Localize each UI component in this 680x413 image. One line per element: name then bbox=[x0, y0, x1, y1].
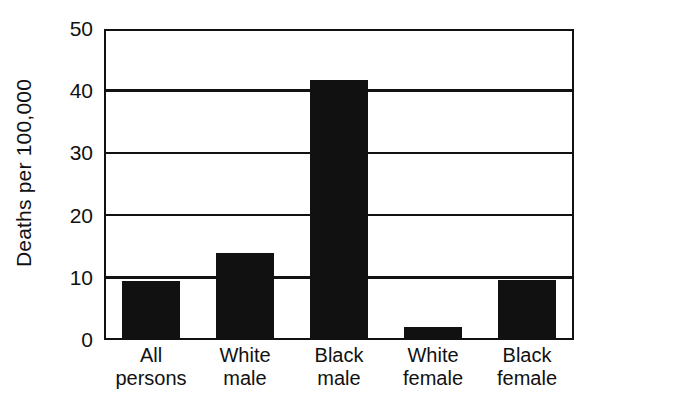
y-axis-tick-label: 0 bbox=[81, 328, 93, 352]
y-axis-tick-label: 20 bbox=[70, 204, 93, 228]
y-axis-title-text: Deaths per 100,000 bbox=[12, 78, 36, 266]
x-axis-tick-label: Blackmale bbox=[315, 344, 364, 390]
x-axis-tick-label-line1: Black bbox=[503, 344, 552, 366]
bar bbox=[498, 280, 556, 338]
y-axis-tick-labels: 01020304050 bbox=[48, 0, 100, 413]
x-axis-tick-label-line2: male bbox=[315, 367, 364, 390]
bar bbox=[216, 253, 274, 338]
x-axis-tick-label-line2: male bbox=[219, 367, 270, 390]
bars-group bbox=[106, 31, 572, 338]
y-axis-tick-label: 10 bbox=[70, 266, 93, 290]
x-axis-tick-label: Blackfemale bbox=[497, 344, 557, 390]
plot-area bbox=[104, 29, 574, 340]
x-axis-tick-label: Allpersons bbox=[115, 344, 186, 390]
bar bbox=[404, 327, 462, 338]
y-axis-tick-label: 40 bbox=[70, 79, 93, 103]
x-axis-tick-label-line1: White bbox=[407, 344, 458, 366]
y-axis-tick-label: 30 bbox=[70, 141, 93, 165]
x-axis-tick-label: Whitefemale bbox=[403, 344, 463, 390]
bar bbox=[122, 281, 180, 338]
x-axis-tick-label-line2: female bbox=[403, 367, 463, 390]
bar bbox=[310, 80, 368, 338]
y-axis-tick-label: 50 bbox=[70, 17, 93, 41]
x-axis-tick-labels: AllpersonsWhitemaleBlackmaleWhitefemaleB… bbox=[104, 344, 574, 413]
x-axis-tick-label-line2: persons bbox=[115, 367, 186, 390]
x-axis-tick-label-line1: Black bbox=[315, 344, 364, 366]
x-axis-tick-label: Whitemale bbox=[219, 344, 270, 390]
x-axis-tick-label-line1: White bbox=[219, 344, 270, 366]
bar-chart-figure: Deaths per 100,000 01020304050 Allperson… bbox=[0, 0, 680, 413]
x-axis-tick-label-line1: All bbox=[140, 344, 162, 366]
y-axis-title: Deaths per 100,000 bbox=[0, 0, 48, 345]
x-axis-tick-label-line2: female bbox=[497, 367, 557, 390]
